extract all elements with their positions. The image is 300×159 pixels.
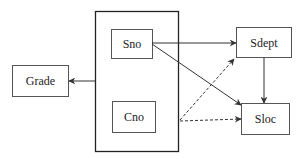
node-sno-label: Sno [123,37,142,51]
node-grade-label: Grade [26,74,55,88]
node-sloc-label: Sloc [255,112,276,126]
node-sno: Sno [112,30,153,59]
node-sloc: Sloc [242,104,290,135]
edge-sno-to-sloc [152,44,241,105]
node-sdept: Sdept [237,28,292,58]
dependency-diagram: Sno Cno Grade Sdept Sloc [0,0,300,159]
node-grade: Grade [13,66,69,97]
node-cno-label: Cno [124,110,144,124]
node-sdept-label: Sdept [250,36,278,50]
node-cno: Cno [113,102,156,133]
edge-key-to-sloc-dashed [180,119,241,121]
